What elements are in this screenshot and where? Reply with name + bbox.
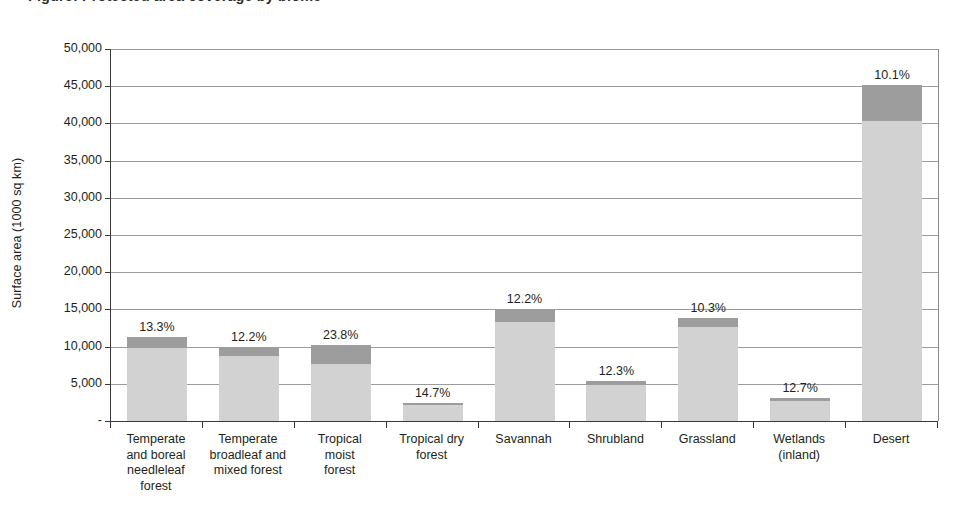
bar-value-label: 12.2% [470, 292, 580, 306]
x-axis-category-label-line: (inland) [753, 448, 845, 464]
x-axis-tick-mark [661, 421, 662, 428]
bar-segment[interactable] [403, 403, 463, 405]
bar-group[interactable]: 23.8% [311, 49, 371, 421]
x-axis-tick-mark [753, 421, 754, 428]
x-axis-category-label-line: forest [294, 463, 386, 479]
y-axis-tick-label: 45,000 [30, 78, 102, 92]
y-axis-tick-label: 50,000 [30, 41, 102, 55]
y-axis-tick-label: 40,000 [30, 115, 102, 129]
y-axis-tick-mark [105, 347, 111, 348]
x-axis-tick-mark [937, 421, 938, 428]
cropped-title-strip: Figure: Protected area coverage by biome [0, 0, 955, 14]
x-axis-category-label-line: Desert [845, 432, 937, 448]
y-axis-tick-mark [105, 309, 111, 310]
bar-segment[interactable] [862, 85, 922, 121]
bar-group[interactable]: 12.2% [219, 49, 279, 421]
x-axis-tick-mark [569, 421, 570, 428]
x-axis-category-label-line: needleleaf [110, 463, 202, 479]
y-axis-tick-mark [105, 86, 111, 87]
bar-segment[interactable] [127, 348, 187, 421]
y-axis-title: Surface area (1000 sq km) [6, 40, 28, 425]
x-axis-category-label: Temperateand borealneedleleafforest [110, 432, 202, 494]
y-axis-tick-mark [105, 49, 111, 50]
x-axis-category-label-line: Temperate [110, 432, 202, 448]
bar-segment[interactable] [127, 337, 187, 348]
x-axis-category-label-line: Temperate [202, 432, 294, 448]
bar-value-label: 14.7% [378, 386, 488, 400]
y-axis-tick-label: 20,000 [30, 264, 102, 278]
x-axis-category-label-line: Tropical [294, 432, 386, 448]
x-axis-category-label-line: mixed forest [202, 463, 294, 479]
bar-segment[interactable] [403, 405, 463, 421]
bar-segment[interactable] [862, 121, 922, 421]
bar-group[interactable]: 12.3% [586, 49, 646, 421]
bar-segment[interactable] [495, 322, 555, 421]
x-axis-category-label-line: Shrubland [569, 432, 661, 448]
bar-group[interactable]: 12.7% [770, 49, 830, 421]
y-axis-tick-mark [105, 235, 111, 236]
x-axis-category-label-line: forest [386, 448, 478, 464]
x-axis-category-label: Temperatebroadleaf andmixed forest [202, 432, 294, 479]
bar-segment[interactable] [678, 318, 738, 328]
y-axis-tick-label: - [30, 413, 102, 427]
bar-value-label: 10.3% [653, 301, 763, 315]
x-axis-tick-mark [110, 421, 111, 428]
x-axis-category-label: Tropicalmoistforest [294, 432, 386, 479]
bar-group[interactable]: 10.3% [678, 49, 738, 421]
y-axis-tick-label: 25,000 [30, 227, 102, 241]
x-axis-category-label: Wetlands(inland) [753, 432, 845, 463]
bar-value-label: 23.8% [286, 328, 396, 342]
bar-segment[interactable] [770, 401, 830, 421]
x-axis-category-label: Shrubland [569, 432, 661, 448]
y-axis-tick-label: 35,000 [30, 153, 102, 167]
x-axis-tick-mark [386, 421, 387, 428]
x-axis-category-label-line: moist [294, 448, 386, 464]
x-axis-tick-mark [202, 421, 203, 428]
x-axis-category-label-line: Grassland [661, 432, 753, 448]
bar-group[interactable]: 14.7% [403, 49, 463, 421]
bar-segment[interactable] [495, 309, 555, 322]
x-axis-tick-mark [478, 421, 479, 428]
bar-segment[interactable] [586, 381, 646, 385]
y-axis-tick-mark [105, 161, 111, 162]
x-axis-tick-mark [294, 421, 295, 428]
bar-group[interactable]: 10.1% [862, 49, 922, 421]
x-axis-labels: Temperateand borealneedleleafforestTempe… [110, 432, 938, 528]
y-axis-tick-mark [105, 384, 111, 385]
x-axis-tick-mark [845, 421, 846, 428]
bar-segment[interactable] [311, 345, 371, 364]
bar-value-label: 12.3% [561, 364, 671, 378]
x-axis-category-label: Desert [845, 432, 937, 448]
x-axis-category-label-line: and boreal [110, 448, 202, 464]
x-axis-category-label-line: broadleaf and [202, 448, 294, 464]
bar-segment[interactable] [219, 356, 279, 421]
y-axis-title-text: Surface area (1000 sq km) [10, 157, 24, 308]
bar-group[interactable]: 13.3% [127, 49, 187, 421]
y-axis-tick-label: 30,000 [30, 190, 102, 204]
y-axis-tick-label: 15,000 [30, 301, 102, 315]
bar-segment[interactable] [311, 364, 371, 421]
bar-value-label: 10.1% [837, 68, 947, 82]
x-axis-category-label-line: forest [110, 479, 202, 495]
y-axis-tick-mark [105, 198, 111, 199]
chart-figure: Figure: Protected area coverage by biome… [0, 0, 955, 530]
x-axis-category-label-line: Tropical dry [386, 432, 478, 448]
x-axis-ticks [110, 421, 938, 429]
plot-area: 13.3%12.2%23.8%14.7%12.2%12.3%10.3%12.7%… [110, 49, 939, 421]
y-axis-tick-mark [105, 123, 111, 124]
bar-segment[interactable] [678, 327, 738, 421]
x-axis-category-label-line: Savannah [478, 432, 570, 448]
x-axis-category-label-line: Wetlands [753, 432, 845, 448]
y-axis-tick-label: 10,000 [30, 339, 102, 353]
x-axis-category-label: Savannah [478, 432, 570, 448]
x-axis-category-label: Tropical dryforest [386, 432, 478, 463]
bar-segment[interactable] [586, 385, 646, 421]
bar-segment[interactable] [219, 347, 279, 356]
x-axis-category-label: Grassland [661, 432, 753, 448]
y-axis-tick-label: 5,000 [30, 376, 102, 390]
figure-title: Figure: Protected area coverage by biome [28, 0, 321, 4]
bar-value-label: 12.7% [745, 381, 855, 395]
bar-segment[interactable] [770, 398, 830, 401]
y-axis-tick-mark [105, 272, 111, 273]
bar-group[interactable]: 12.2% [495, 49, 555, 421]
